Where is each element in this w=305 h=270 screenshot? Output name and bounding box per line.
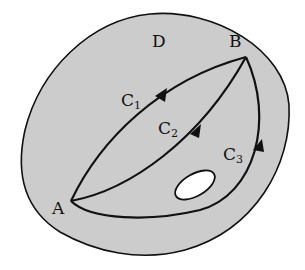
label-c1: C1 <box>121 92 141 111</box>
c3-subscript: 3 <box>236 153 243 166</box>
c3-name: C <box>223 144 236 164</box>
label-c3: C3 <box>223 146 243 165</box>
label-a: A <box>52 200 64 217</box>
label-c2: C2 <box>158 120 178 139</box>
diagram: D B A C1 C2 C3 <box>0 0 305 270</box>
label-b: B <box>229 33 242 50</box>
c1-name: C <box>121 90 134 110</box>
label-d: D <box>152 33 166 50</box>
c2-subscript: 2 <box>171 127 178 140</box>
c2-name: C <box>158 118 171 138</box>
c1-subscript: 1 <box>134 99 141 112</box>
